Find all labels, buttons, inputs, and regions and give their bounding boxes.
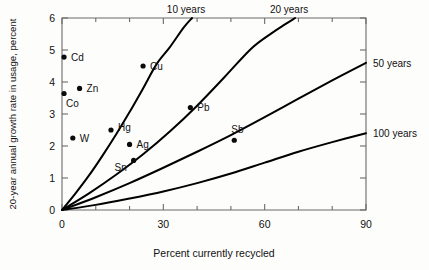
y-tick-label: 4	[49, 76, 55, 88]
data-point-W	[70, 135, 75, 140]
y-tick-label: 1	[49, 172, 55, 184]
y-tick-label: 3	[49, 108, 55, 120]
data-point-Sb	[232, 138, 237, 143]
curve-100-years	[62, 133, 366, 210]
element-data-points: CdCuZnCoPbHgWSbAgSn	[61, 52, 244, 174]
x-tick-label: 60	[259, 218, 271, 230]
curve-50-years	[62, 63, 366, 210]
data-point-label-Cd: Cd	[71, 52, 84, 63]
y-axis-title: 20-year annual growth rate in usage, per…	[7, 18, 18, 209]
data-point-label-Cu: Cu	[150, 61, 163, 72]
data-point-label-Pb: Pb	[197, 102, 210, 113]
curve-10-years	[62, 18, 192, 210]
curve-20-years	[62, 18, 295, 210]
data-point-label-Ag: Ag	[137, 139, 149, 150]
data-point-Sn	[131, 158, 136, 163]
data-point-label-Hg: Hg	[118, 122, 131, 133]
data-point-label-Zn: Zn	[87, 83, 99, 94]
x-axis-title: Percent currently recycled	[153, 247, 275, 259]
x-tick-label: 90	[360, 218, 372, 230]
x-tick-label: 0	[59, 218, 65, 230]
data-point-Pb	[188, 105, 193, 110]
data-point-label-Sn: Sn	[115, 162, 127, 173]
depletion-curves	[62, 18, 366, 210]
data-point-Cd	[61, 54, 66, 59]
curve-label-10-years: 10 years	[167, 4, 205, 15]
data-point-label-W: W	[80, 133, 90, 144]
y-tick-label: 2	[49, 140, 55, 152]
curve-label-100-years: 100 years	[373, 128, 417, 139]
curve-label-20-years: 20 years	[270, 4, 308, 15]
x-axis-tick-labels: 0306090	[59, 218, 372, 230]
data-point-Ag	[127, 142, 132, 147]
data-point-label-Co: Co	[66, 98, 79, 109]
curve-labels: 10 years20 years50 years100 years	[167, 4, 417, 139]
data-point-Cu	[140, 63, 145, 68]
data-point-label-Sb: Sb	[231, 124, 244, 135]
data-point-Hg	[108, 127, 113, 132]
chart-figure: 0306090 0123456 10 years20 years50 years…	[0, 0, 429, 270]
growth-rate-vs-recycling-scatter-chart: 0306090 0123456 10 years20 years50 years…	[0, 0, 429, 270]
data-point-Co	[61, 91, 66, 96]
y-tick-label: 0	[49, 204, 55, 216]
x-tick-label: 30	[157, 218, 169, 230]
y-tick-label: 5	[49, 44, 55, 56]
y-tick-label: 6	[49, 12, 55, 24]
data-point-Zn	[77, 86, 82, 91]
curve-label-50-years: 50 years	[373, 58, 411, 69]
y-axis-tick-labels: 0123456	[49, 12, 55, 216]
